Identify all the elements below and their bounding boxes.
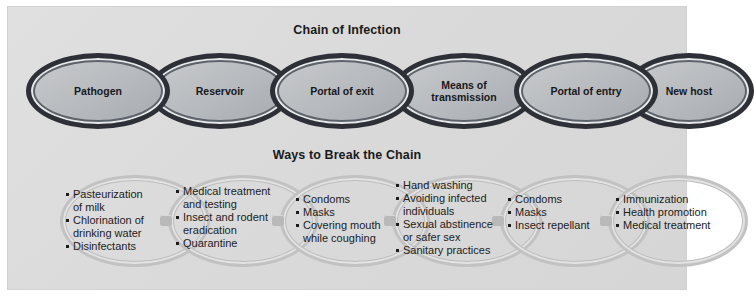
list-item: Health promotion xyxy=(616,206,730,219)
list-item: Masks xyxy=(508,206,620,219)
ways-to-break-the-chain-title: Ways to Break the Chain xyxy=(8,148,686,162)
break-list-reservoir: Medical treatment and testing Insect and… xyxy=(176,185,294,250)
list-item: Disinfectants xyxy=(66,240,178,253)
list-item: Covering mouth while coughing xyxy=(296,219,406,245)
list-item: Insect and rodent eradication xyxy=(176,211,294,237)
chain-link-label: Means of transmission xyxy=(431,79,496,103)
chain-link-label: Reservoir xyxy=(196,85,244,97)
list-item: Insect repellant xyxy=(508,219,620,232)
break-list-pathogen: Pasteurization of milk Chlorination of d… xyxy=(66,188,178,253)
list-item: Medical treatment and testing xyxy=(176,185,294,211)
break-list-portal-of-exit: Condoms Masks Covering mouth while cough… xyxy=(296,193,406,245)
break-list-means-of-transmission: Hand washing Avoiding infected individua… xyxy=(396,179,514,257)
list-item: Chlorination of drinking water xyxy=(66,214,178,240)
list-item: Medical treatment xyxy=(616,219,730,232)
list-item: Sexual abstinence or safer sex xyxy=(396,218,514,244)
chain-link-pathogen: Pathogen xyxy=(26,53,170,129)
chain-of-infection-row: Pathogen Reservoir Portal of exit Means … xyxy=(8,53,686,129)
chain-of-infection-title: Chain of Infection xyxy=(8,23,686,37)
break-list-portal-of-entry: Condoms Masks Insect repellant xyxy=(508,193,620,232)
list-item: Condoms xyxy=(508,193,620,206)
list-item: Masks xyxy=(296,206,406,219)
chain-link-portal-of-entry: Portal of entry xyxy=(514,53,658,129)
list-item: Quarantine xyxy=(176,237,294,250)
list-item: Pasteurization of milk xyxy=(66,188,178,214)
chain-link-label: New host xyxy=(666,85,713,97)
list-item: Hand washing xyxy=(396,179,514,192)
list-item: Immunization xyxy=(616,193,730,206)
figure-panel: Chain of Infection Pathogen Reservoir Po… xyxy=(8,7,686,289)
chain-link-label: Portal of exit xyxy=(310,85,374,97)
list-item: Sanitary practices xyxy=(396,244,514,257)
list-item: Avoiding infected individuals xyxy=(396,192,514,218)
ways-to-break-the-chain-row: Pasteurization of milk Chlorination of d… xyxy=(8,175,686,271)
break-list-new-host: Immunization Health promotion Medical tr… xyxy=(616,193,730,232)
list-item: Condoms xyxy=(296,193,406,206)
chain-link-label: Portal of entry xyxy=(550,85,621,97)
chain-link-portal-of-exit: Portal of exit xyxy=(270,53,414,129)
chain-link-label: Pathogen xyxy=(74,85,122,97)
